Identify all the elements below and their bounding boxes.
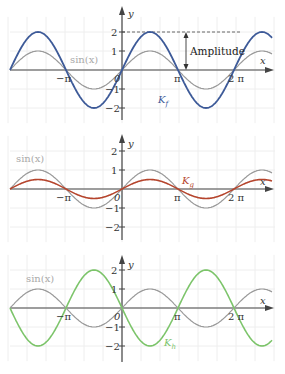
origin-label: 0 (114, 73, 121, 84)
x-tick-pi: π (174, 192, 181, 203)
x-tick-neg-pi: −π (56, 192, 71, 203)
x-axis-arrow-icon (265, 305, 274, 311)
y-tick-1: 1 (111, 46, 117, 57)
chart-panel-kh: y x 2 1 −1 −2 −π 0 π 2 π sin(x) Kh (0, 248, 285, 374)
y-axis-label: y (127, 138, 134, 149)
amplitude-arrow-down-icon (184, 64, 189, 70)
x-axis-label: x (260, 295, 266, 306)
chart-kg-svg: y x 2 1 −1 −2 −π 0 π 2 π sin(x) Kg (0, 124, 285, 248)
y-tick-2: 2 (111, 265, 117, 276)
y-axis-label: y (127, 259, 134, 270)
y-axis-arrow-icon (119, 255, 125, 264)
amplitude-label: Amplitude (189, 45, 245, 57)
x-axis-label: x (260, 176, 266, 187)
x-tick-2pi: 2 π (228, 192, 245, 203)
origin-label: 0 (114, 192, 121, 203)
x-tick-pi: π (174, 73, 181, 84)
y-tick-neg1: −1 (105, 203, 120, 214)
x-axis-label: x (260, 55, 266, 66)
x-tick-neg-pi: −π (56, 311, 71, 322)
y-tick-1: 1 (111, 284, 117, 295)
x-axis-arrow-icon (265, 67, 274, 73)
y-tick-2: 2 (111, 146, 117, 157)
chart-kf-svg: Amplitude y x 2 1 −1 −2 −π 0 π 2 π sin(x… (0, 0, 285, 124)
sin-label: sin(x) (16, 153, 44, 164)
y-tick-neg2: −2 (105, 222, 120, 233)
origin-label: 0 (114, 311, 121, 322)
y-tick-neg2: −2 (105, 103, 120, 114)
sin-label: sin(x) (26, 273, 54, 284)
chart-panel-kf: Amplitude y x 2 1 −1 −2 −π 0 π 2 π sin(x… (0, 0, 285, 124)
sin-label: sin(x) (70, 54, 98, 65)
y-tick-neg1: −1 (105, 84, 120, 95)
y-axis-arrow-icon (119, 6, 125, 15)
x-axis-arrow-icon (265, 186, 274, 192)
x-tick-2pi: 2 π (228, 311, 245, 322)
chart-panel-kg: y x 2 1 −1 −2 −π 0 π 2 π sin(x) Kg (0, 124, 285, 248)
y-tick-neg2: −2 (105, 341, 120, 352)
y-tick-neg1: −1 (105, 322, 120, 333)
y-tick-1: 1 (111, 165, 117, 176)
y-axis-arrow-icon (119, 134, 125, 143)
y-axis-label: y (127, 8, 134, 19)
kg-label: Kg (181, 175, 194, 189)
amplitude-arrow-up-icon (184, 32, 189, 38)
x-tick-neg-pi: −π (56, 73, 71, 84)
kh-label: Kh (163, 337, 176, 351)
chart-kh-svg: y x 2 1 −1 −2 −π 0 π 2 π sin(x) Kh (0, 248, 285, 374)
y-tick-2: 2 (111, 27, 117, 38)
x-tick-pi: π (174, 311, 181, 322)
x-tick-2pi: 2 π (228, 73, 245, 84)
kf-label: Kf (157, 94, 169, 108)
